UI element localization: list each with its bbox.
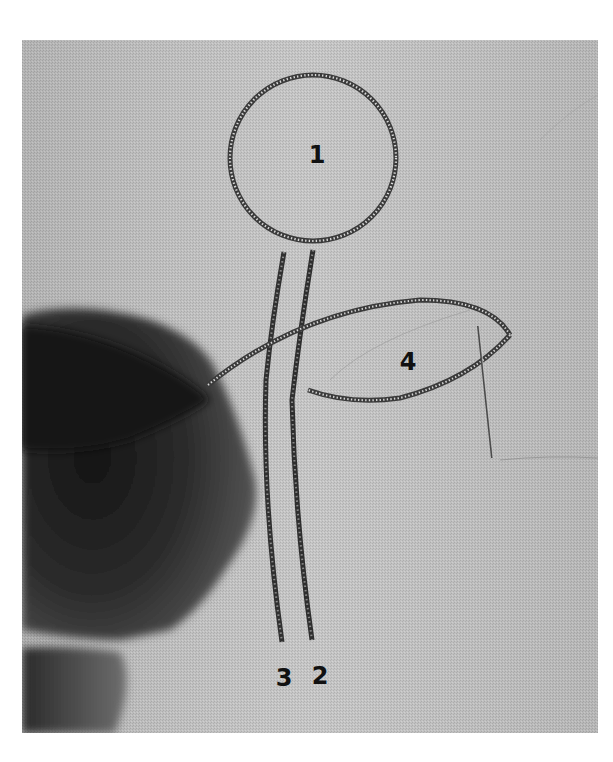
label-2: 2 (312, 664, 329, 688)
label-1: 1 (309, 143, 326, 167)
label-3: 3 (276, 666, 293, 690)
label-4: 4 (400, 350, 417, 374)
